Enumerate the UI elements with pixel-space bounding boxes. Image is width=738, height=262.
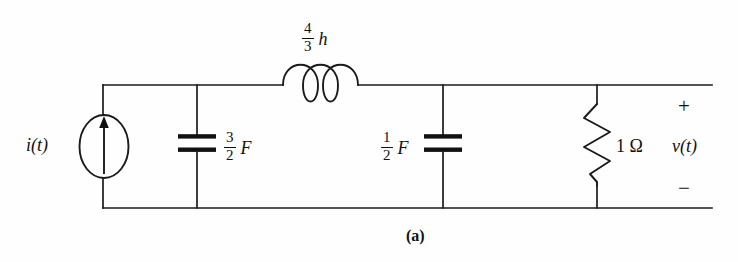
current-source-label: i(t) [26,136,48,154]
inductor-denominator: 3 [302,39,314,55]
capacitor-1-symbol [178,85,216,208]
capacitor-1-value-label: 3 2 F [224,131,252,164]
output-minus-sign: − [678,178,690,199]
resistor-value-label: 1 Ω [616,137,643,155]
capacitor-2-numerator: 1 [381,130,393,146]
capacitor-1-numerator: 3 [224,130,236,146]
capacitor-2-plate-top [424,134,462,138]
figure-caption: (a) [406,228,425,244]
inductor-fraction: 4 3 [302,21,314,54]
output-voltage-label: v(t) [672,137,697,155]
resistor-zigzag [584,104,610,186]
capacitor-1-plate-top [178,134,216,138]
current-source-symbol [80,115,129,178]
inductor-unit: h [314,30,328,48]
capacitor-2-denominator: 2 [381,148,393,164]
inductor-numerator: 4 [302,21,314,37]
inductor-coil [283,65,358,102]
circuit-schematic-svg [0,0,738,262]
circuit-diagram-figure: i(t) 4 3 h 3 2 F 1 2 F 1 Ω + v(t) − (a) [0,0,738,262]
capacitor-2-value-label: 1 2 F [381,131,409,164]
resistor-symbol [584,85,610,208]
capacitor-1-unit: F [236,139,252,157]
capacitor-2-symbol [424,85,462,208]
output-plus-sign: + [678,96,690,117]
current-source-arrow-head [99,116,109,128]
capacitor-2-unit: F [393,139,409,157]
inductor-symbol [283,65,358,102]
capacitor-1-fraction: 3 2 [224,130,236,163]
inductor-value-label: 4 3 h [302,22,328,55]
capacitor-1-denominator: 2 [224,148,236,164]
capacitor-2-fraction: 1 2 [381,130,393,163]
